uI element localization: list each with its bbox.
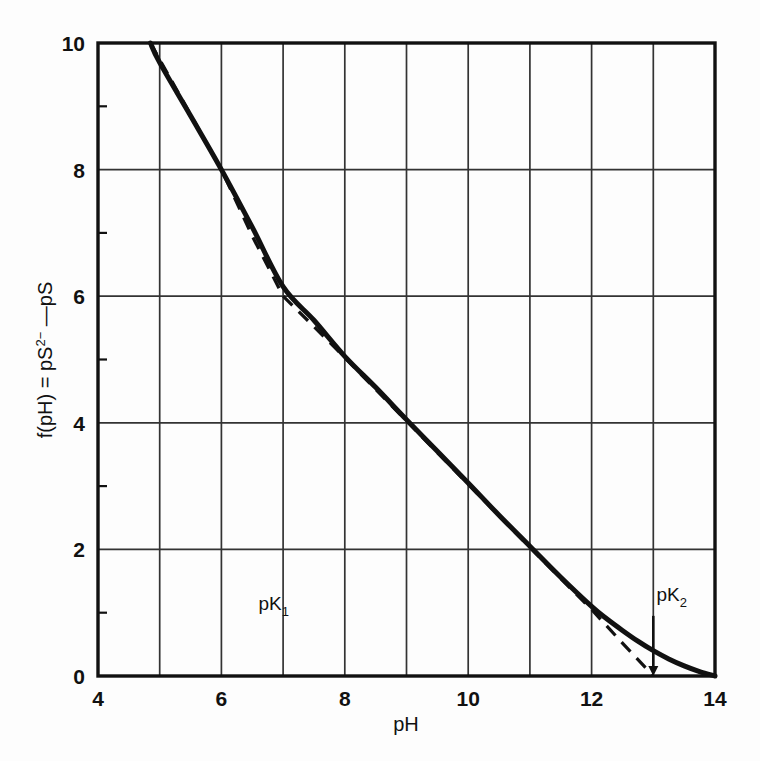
x-tick-label-8: 8 — [339, 687, 351, 710]
ph-speciation-chart: 468101214 0246810 pH f(pH) = pS2− —pS pK… — [0, 0, 760, 761]
y-tick-label-2: 2 — [73, 538, 85, 561]
y-tick-label-10: 10 — [62, 32, 85, 55]
x-tick-label-6: 6 — [216, 687, 228, 710]
chart-figure: 468101214 0246810 pH f(pH) = pS2− —pS pK… — [0, 0, 760, 761]
y-axis-title: f(pH) = pS2− —pS — [33, 282, 56, 439]
x-axis-title: pH — [393, 713, 419, 735]
y-tick-label-0: 0 — [73, 665, 85, 688]
svg-text:f(pH) = pS2− —pS: f(pH) = pS2− —pS — [33, 282, 56, 439]
figure-page: 468101214 0246810 pH f(pH) = pS2− —pS pK… — [0, 0, 760, 761]
pk1-label-lead: pK — [258, 593, 282, 614]
pk2-label-lead: pK — [656, 584, 680, 605]
pk2-label-subscript: 2 — [680, 595, 687, 610]
x-tick-label-12: 12 — [580, 687, 603, 710]
pk1-label-subscript: 1 — [282, 604, 289, 619]
y-axis-title-lead: f(pH) = pS — [34, 347, 56, 439]
y-axis-title-superscript: 2− — [33, 332, 48, 347]
x-tick-label-14: 14 — [703, 687, 727, 710]
y-axis-title-tail: —pS — [34, 282, 56, 332]
x-tick-label-10: 10 — [457, 687, 480, 710]
y-tick-label-6: 6 — [73, 285, 85, 308]
y-tick-label-8: 8 — [73, 159, 85, 182]
x-tick-label-4: 4 — [92, 687, 104, 710]
y-tick-label-4: 4 — [73, 412, 85, 435]
